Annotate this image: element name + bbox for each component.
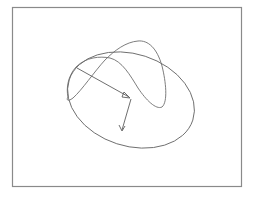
vector-arrow-2 (119, 99, 131, 131)
diagram-canvas (0, 0, 256, 197)
vector-arrow-1 (77, 68, 130, 98)
arrowhead-icon (119, 125, 125, 131)
diagram-frame (13, 8, 242, 187)
twisted-curve (67, 41, 166, 108)
